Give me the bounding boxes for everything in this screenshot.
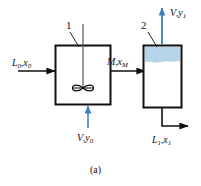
process-flow-diagram: L0,x0 M,xM V,y1 V,y0 L1,x1 1 2 (a) <box>0 0 201 186</box>
label-product-gas: V,y1 <box>170 8 186 20</box>
label-intermediate-composition-sub: M <box>122 61 128 69</box>
label-feed-liquid: L0,x0 <box>12 58 31 70</box>
label-feed-liquid-composition-sub: 0 <box>28 62 32 70</box>
label-product-liquid: L1,x1 <box>152 135 171 147</box>
label-intermediate-stream: M,xM <box>107 57 128 69</box>
flowsheet-drawing <box>0 0 201 186</box>
equipment-tag-2: 2 <box>141 20 147 31</box>
equipment-tag-1: 1 <box>66 20 72 31</box>
figure-caption: (a) <box>90 165 101 175</box>
label-product-liquid-composition-sub: 1 <box>168 139 172 147</box>
product-liquid-arrow <box>162 107 188 126</box>
settling-vessel <box>144 46 182 108</box>
label-product-gas-composition-sub: 1 <box>183 12 187 20</box>
liquid-layer <box>145 47 180 63</box>
label-feed-gas-composition-sub: 0 <box>90 137 94 145</box>
label-feed-gas: V,y0 <box>77 133 93 145</box>
